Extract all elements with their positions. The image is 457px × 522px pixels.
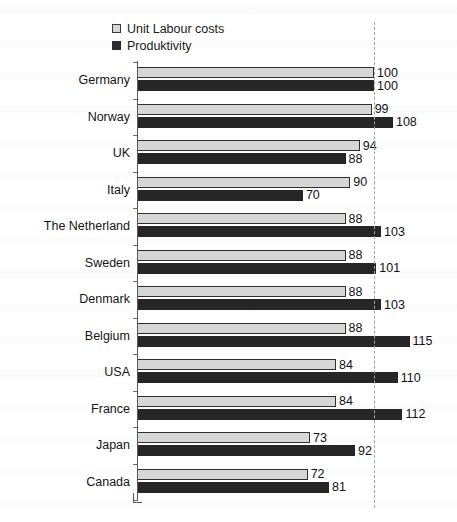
chart-category-row: Belgium88115 [137, 318, 457, 355]
bar[interactable] [137, 323, 346, 334]
legend-swatch-dark-icon [112, 41, 121, 50]
bar-group-produktivity: 101 [137, 263, 400, 274]
bar-group-produktivity: 88 [137, 153, 362, 164]
bar-value-label: 88 [349, 153, 363, 165]
bar-value-label: 88 [349, 249, 363, 261]
category-label-canada: Canada [86, 475, 130, 489]
bar-value-label: 110 [401, 372, 421, 384]
bar-value-label: 70 [306, 189, 320, 201]
category-label-sweden: Sweden [85, 256, 130, 270]
bar-value-label: 112 [405, 408, 425, 420]
category-label-the-netherland: The Netherland [44, 219, 130, 233]
bar-value-label: 84 [339, 395, 353, 407]
chart-category-row: Japan7392 [137, 427, 457, 464]
bar-value-label: 100 [377, 80, 398, 92]
chart-legend: Unit Labour costs Produktivity [112, 20, 224, 54]
bar-value-label: 108 [396, 116, 417, 128]
bar-group-unit-labour-costs: 99 [137, 104, 389, 115]
bar[interactable] [137, 396, 336, 407]
bar-group-unit-labour-costs: 73 [137, 432, 327, 443]
bar[interactable] [137, 67, 374, 78]
bar[interactable] [137, 286, 346, 297]
bar[interactable] [137, 153, 346, 164]
chart-category-row: USA84110 [137, 354, 457, 391]
bar-value-label: 103 [384, 226, 405, 238]
chart-category-row: Italy9070 [137, 172, 457, 209]
bar[interactable] [137, 482, 329, 493]
bar[interactable] [137, 226, 381, 237]
bar-value-label: 84 [339, 359, 353, 371]
chart-category-row: Norway99108 [137, 99, 457, 136]
bar-group-produktivity: 103 [137, 226, 405, 237]
category-label-belgium: Belgium [85, 329, 130, 343]
bar-group-unit-labour-costs: 88 [137, 323, 362, 334]
category-label-france: France [91, 402, 130, 416]
bar[interactable] [137, 469, 308, 480]
bar[interactable] [137, 213, 346, 224]
bar-group-unit-labour-costs: 72 [137, 469, 325, 480]
bar[interactable] [137, 263, 376, 274]
bar-value-label: 99 [375, 103, 389, 115]
bar[interactable] [137, 299, 381, 310]
bar-group-unit-labour-costs: 88 [137, 250, 362, 261]
category-label-norway: Norway [88, 110, 130, 124]
bar-value-label: 81 [332, 481, 346, 493]
bar-group-unit-labour-costs: 88 [137, 213, 362, 224]
bar-group-produktivity: 112 [137, 409, 425, 420]
bar-group-unit-labour-costs: 94 [137, 140, 377, 151]
bar-value-label: 115 [413, 335, 433, 347]
bar-value-label: 88 [349, 286, 363, 298]
legend-swatch-light-icon [112, 24, 121, 33]
bar-group-produktivity: 70 [137, 190, 320, 201]
bar[interactable] [137, 250, 346, 261]
chart-category-row: The Netherland88103 [137, 208, 457, 245]
bar-value-label: 101 [379, 262, 400, 274]
bar[interactable] [137, 117, 393, 128]
category-label-uk: UK [113, 146, 130, 160]
bar[interactable] [137, 190, 303, 201]
bar[interactable] [137, 140, 360, 151]
bar-group-unit-labour-costs: 88 [137, 286, 362, 297]
bar[interactable] [137, 104, 372, 115]
chart-category-row: Germany100100 [137, 62, 457, 99]
bar-group-unit-labour-costs: 84 [137, 396, 353, 407]
chart-category-row: Sweden88101 [137, 245, 457, 282]
chart-category-row: France84112 [137, 391, 457, 428]
bar-value-label: 88 [349, 322, 363, 334]
bar-value-label: 73 [313, 432, 327, 444]
bar-value-label: 103 [384, 299, 405, 311]
legend-label-unit-labour-costs: Unit Labour costs [127, 21, 224, 37]
bar-value-label: 92 [358, 445, 372, 457]
bar[interactable] [137, 336, 410, 347]
bar-group-unit-labour-costs: 90 [137, 177, 367, 188]
bar-chart: Unit Labour costs Produktivity Germany10… [0, 0, 457, 522]
bar-value-label: 90 [353, 176, 367, 188]
chart-category-row: UK9488 [137, 135, 457, 172]
bar-group-produktivity: 110 [137, 372, 421, 383]
category-label-denmark: Denmark [79, 292, 130, 306]
bar-group-produktivity: 115 [137, 336, 432, 347]
bar[interactable] [137, 409, 402, 420]
bar[interactable] [137, 432, 310, 443]
reference-line-100 [374, 22, 375, 508]
category-label-italy: Italy [107, 183, 130, 197]
plot-area: Germany100100Norway99108UK9488Italy9070T… [137, 62, 349, 500]
bar-group-unit-labour-costs: 100 [137, 67, 398, 78]
bar[interactable] [137, 445, 355, 456]
bar-group-produktivity: 81 [137, 482, 346, 493]
bar[interactable] [137, 177, 350, 188]
bar[interactable] [137, 80, 374, 91]
category-axis [137, 61, 138, 501]
category-label-usa: USA [104, 365, 130, 379]
bar-group-unit-labour-costs: 84 [137, 359, 353, 370]
bar[interactable] [137, 372, 398, 383]
bar-group-produktivity: 100 [137, 80, 398, 91]
bar-value-label: 72 [311, 468, 325, 480]
bar[interactable] [137, 359, 336, 370]
legend-item-produktivity: Produktivity [112, 37, 224, 54]
bar-value-label: 100 [377, 67, 398, 79]
category-label-japan: Japan [96, 438, 130, 452]
category-label-germany: Germany [79, 73, 130, 87]
bar-group-produktivity: 103 [137, 299, 405, 310]
chart-category-row: Denmark88103 [137, 281, 457, 318]
